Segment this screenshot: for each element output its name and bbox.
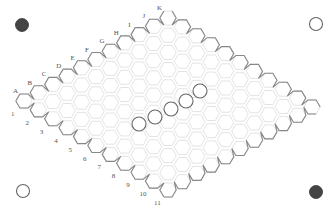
hex-cell-C4[interactable]	[88, 104, 104, 118]
hex-cell-J7[interactable]	[232, 73, 248, 87]
corner-marker-bottom-left-white-icon	[17, 185, 30, 198]
hex-cell-C5[interactable]	[102, 113, 118, 127]
column-label: B	[27, 79, 32, 87]
row-label: 11	[154, 199, 161, 207]
row-label: 4	[54, 137, 58, 145]
hex-cell-C9[interactable]	[160, 149, 176, 163]
hex-cell-D4[interactable]	[102, 96, 118, 110]
hex-cell-D5[interactable]	[117, 105, 133, 119]
hex-board[interactable]: ABCDEFGHIJK1234567891011	[0, 0, 335, 216]
hex-cell-G5[interactable]	[160, 80, 176, 94]
hex-cell-I5[interactable]	[189, 63, 205, 77]
row-label: 8	[112, 172, 116, 180]
hex-cell-E3[interactable]	[102, 79, 118, 93]
hex-cell-G8[interactable]	[203, 107, 219, 121]
hex-cell-E9[interactable]	[189, 132, 205, 146]
hex-cell-H9[interactable]	[232, 107, 248, 121]
hex-cell-D8[interactable]	[160, 131, 176, 145]
hex-cell-G10[interactable]	[232, 124, 248, 138]
column-label: J	[143, 12, 146, 20]
white-stone	[179, 94, 193, 108]
hex-cell-B9[interactable]	[145, 157, 161, 171]
hex-cell-F2[interactable]	[102, 61, 118, 75]
hex-cell-I10[interactable]	[261, 108, 277, 122]
hex-cell-E8[interactable]	[174, 123, 190, 137]
hex-cell-G9[interactable]	[217, 115, 233, 129]
hex-cell-F9[interactable]	[203, 124, 219, 138]
hex-cell-H10[interactable]	[246, 116, 262, 130]
hex-cell-I9[interactable]	[246, 99, 262, 113]
hex-cell-J5[interactable]	[203, 55, 219, 69]
hex-cell-B8[interactable]	[131, 148, 147, 162]
hex-cell-H3[interactable]	[145, 54, 161, 68]
hex-cell-C7[interactable]	[131, 131, 147, 145]
hex-cell-I2[interactable]	[145, 37, 161, 51]
hex-cell-J3[interactable]	[174, 37, 190, 51]
row-label: 3	[40, 128, 44, 136]
hex-cell-B2[interactable]	[45, 95, 61, 109]
corner-marker-top-left-black-icon	[16, 19, 29, 32]
hex-cell-I4[interactable]	[174, 54, 190, 68]
white-stone	[132, 117, 146, 131]
hex-cell-B6[interactable]	[102, 130, 118, 144]
hex-cell-F8[interactable]	[189, 115, 205, 129]
column-label: F	[85, 46, 89, 54]
white-stone	[164, 102, 178, 116]
hex-cell-B10[interactable]	[160, 166, 176, 180]
column-label: A	[13, 87, 18, 95]
hex-cell-E2[interactable]	[88, 70, 104, 84]
hex-cell-J10[interactable]	[275, 99, 291, 113]
column-label: H	[114, 29, 119, 37]
hex-cell-D7[interactable]	[145, 123, 161, 137]
row-label: 7	[97, 163, 101, 171]
corner-marker-bottom-right-black-icon	[310, 186, 323, 199]
hex-cell-F5[interactable]	[145, 88, 161, 102]
hex-cell-C3[interactable]	[73, 95, 89, 109]
hex-cell-C10[interactable]	[174, 158, 190, 172]
column-label: E	[71, 54, 75, 62]
hex-cell-J4[interactable]	[189, 46, 205, 60]
hex-cell-B3[interactable]	[59, 104, 75, 118]
column-label: D	[56, 62, 61, 70]
white-stone	[148, 110, 162, 124]
hex-cell-E4[interactable]	[117, 88, 133, 102]
hex-cell-H5[interactable]	[174, 72, 190, 86]
hex-cell-B7[interactable]	[117, 139, 133, 153]
column-label: G	[99, 37, 104, 45]
hex-cell-C8[interactable]	[145, 140, 161, 154]
hex-cell-J9[interactable]	[261, 91, 277, 105]
hex-cell-D10[interactable]	[189, 149, 205, 163]
hex-cell-J2[interactable]	[160, 28, 176, 42]
hex-cell-D2[interactable]	[73, 78, 89, 92]
hex-cell-I8[interactable]	[232, 90, 248, 104]
hex-cell-G4[interactable]	[145, 71, 161, 85]
hex-cell-D9[interactable]	[174, 140, 190, 154]
hex-cell-E5[interactable]	[131, 96, 147, 110]
hex-cell-B4[interactable]	[73, 112, 89, 126]
hex-cell-H4[interactable]	[160, 63, 176, 77]
hex-cell-C2[interactable]	[59, 86, 75, 100]
row-label: 9	[126, 181, 130, 189]
hex-cell-F10[interactable]	[217, 133, 233, 147]
column-label: K	[157, 4, 162, 12]
hex-cell-F3[interactable]	[117, 70, 133, 84]
hex-cell-J8[interactable]	[246, 82, 262, 96]
hex-cell-B5[interactable]	[88, 121, 104, 135]
white-stone	[193, 84, 207, 98]
hex-cell-H8[interactable]	[217, 98, 233, 112]
hex-cell-I7[interactable]	[217, 81, 233, 95]
hex-cell-D3[interactable]	[88, 87, 104, 101]
row-label: 10	[140, 190, 148, 198]
hex-cell-J6[interactable]	[217, 64, 233, 78]
hex-cell-F4[interactable]	[131, 79, 147, 93]
hex-cell-H2[interactable]	[131, 45, 147, 59]
hex-cell-E10[interactable]	[203, 141, 219, 155]
hex-cell-C6[interactable]	[117, 122, 133, 136]
column-label: C	[42, 70, 47, 78]
hex-cell-I3[interactable]	[160, 45, 176, 59]
hex-cell-I6[interactable]	[203, 72, 219, 86]
row-label: 6	[83, 155, 87, 163]
hex-cell-G3[interactable]	[131, 62, 147, 76]
hex-cell-G2[interactable]	[117, 53, 133, 67]
column-label: I	[128, 21, 131, 29]
